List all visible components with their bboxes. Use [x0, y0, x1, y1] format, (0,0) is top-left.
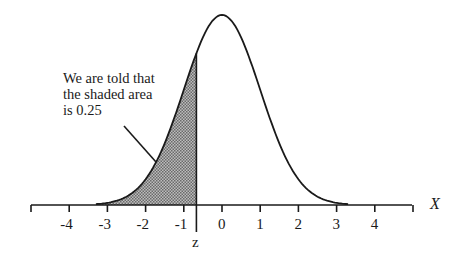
x-tick-label: -2 — [137, 216, 150, 232]
x-axis-ticks — [31, 205, 413, 212]
annotation-pointer — [124, 126, 156, 162]
x-tick-label: 4 — [371, 216, 379, 232]
annotation-line-3: is 0.25 — [63, 102, 155, 118]
annotation-line-1: We are told that — [63, 70, 155, 86]
annotation-text: We are told that the shaded area is 0.25 — [63, 70, 155, 118]
x-tick-label: -4 — [60, 216, 73, 232]
x-tick-label: -1 — [175, 216, 188, 232]
x-tick-label: 3 — [333, 216, 341, 232]
normal-curve-diagram: X z -4-3-2-101234 — [0, 0, 459, 274]
annotation-line-2: the shaded area — [63, 86, 155, 102]
x-tick-label: -3 — [98, 216, 111, 232]
x-tick-label: 0 — [218, 216, 226, 232]
x-tick-label: 2 — [294, 216, 302, 232]
z-label: z — [192, 234, 199, 250]
x-axis-label: X — [429, 195, 441, 212]
x-tick-labels: -4-3-2-101234 — [60, 216, 379, 232]
x-tick-label: 1 — [256, 216, 264, 232]
